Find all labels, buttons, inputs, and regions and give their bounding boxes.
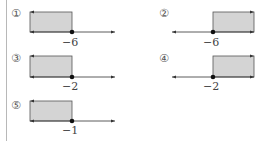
arrow-right-icon [111,76,115,79]
shaded-region [213,12,254,32]
shaded-region [30,56,72,77]
point-dot [70,30,75,35]
point-label: −1 [62,125,78,136]
option-2[interactable]: ② −6 [133,0,267,47]
arrow-left-icon [172,31,176,34]
shaded-region [30,12,72,32]
arrow-right-icon [111,120,115,123]
option-5[interactable]: ⑤ −1 [0,94,133,141]
point-dot [211,30,216,35]
number-line-diagram [133,47,267,94]
number-line-diagram [133,0,267,47]
option-4[interactable]: ④ −2 [133,47,267,94]
point-dot [70,119,75,124]
point-dot [70,75,75,80]
option-1[interactable]: ① −6 [0,0,133,47]
option-3[interactable]: ③ −2 [0,47,133,94]
shaded-region [30,101,72,121]
point-dot [211,75,216,80]
point-label: −2 [203,81,219,92]
shaded-region [213,56,254,77]
arrow-left-icon [172,76,176,79]
point-label: −2 [62,81,78,92]
arrow-right-icon [111,31,115,34]
